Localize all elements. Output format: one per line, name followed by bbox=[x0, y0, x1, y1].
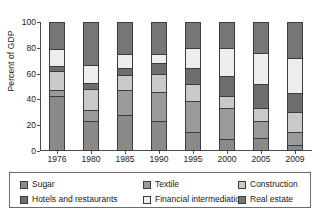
bar-segment[interactable] bbox=[83, 89, 99, 110]
bar-segment[interactable] bbox=[49, 22, 65, 49]
legend-swatch-icon bbox=[238, 196, 246, 204]
bar-segment[interactable] bbox=[151, 54, 167, 63]
legend-label: Textile bbox=[155, 180, 179, 189]
legend-swatch-icon bbox=[20, 196, 28, 204]
bar-segment[interactable] bbox=[151, 121, 167, 151]
bar-stack bbox=[287, 22, 303, 151]
bar-stack bbox=[83, 22, 99, 151]
bar-segment[interactable] bbox=[117, 90, 133, 115]
bar-stack bbox=[219, 22, 235, 151]
bar-segment[interactable] bbox=[185, 48, 201, 69]
bar-column[interactable] bbox=[219, 22, 235, 151]
bar-segment[interactable] bbox=[83, 110, 99, 122]
legend-grid: SugarTextileConstructionHotels and resta… bbox=[10, 173, 310, 207]
bar-column[interactable] bbox=[253, 22, 269, 151]
bar-segment[interactable] bbox=[287, 112, 303, 131]
bar-segment[interactable] bbox=[185, 68, 201, 83]
bar-segment[interactable] bbox=[219, 76, 235, 95]
bar-segment[interactable] bbox=[117, 22, 133, 54]
bar-stack bbox=[253, 22, 269, 151]
y-axis-tick-mark bbox=[37, 151, 40, 152]
bar-segment[interactable] bbox=[219, 108, 235, 139]
bar-segment[interactable] bbox=[83, 65, 99, 83]
bar-segment[interactable] bbox=[151, 63, 167, 73]
legend-item[interactable]: Hotels and restaurants bbox=[20, 193, 118, 206]
bar-stack bbox=[185, 22, 201, 151]
bar-segment[interactable] bbox=[151, 92, 167, 122]
legend-label: Financial intermediation bbox=[155, 195, 245, 204]
bar-segment[interactable] bbox=[253, 138, 269, 151]
bar-segment[interactable] bbox=[287, 145, 303, 151]
x-axis-tick-label: 2009 bbox=[275, 154, 315, 164]
y-axis-tick-label: 40 bbox=[14, 95, 36, 104]
bar-segment[interactable] bbox=[151, 22, 167, 54]
bar-segment[interactable] bbox=[219, 139, 235, 151]
bar-stack bbox=[151, 22, 167, 151]
bar-segment[interactable] bbox=[287, 58, 303, 93]
y-axis-tick-label: 60 bbox=[14, 70, 36, 79]
legend-swatch-icon bbox=[20, 181, 28, 189]
bar-segment[interactable] bbox=[287, 22, 303, 58]
bar-segment[interactable] bbox=[219, 22, 235, 48]
legend-item[interactable]: Construction bbox=[238, 178, 298, 191]
legend-item[interactable]: Sugar bbox=[20, 178, 55, 191]
legend-label: Construction bbox=[250, 180, 298, 189]
legend-item[interactable]: Real estate bbox=[238, 193, 293, 206]
bar-stack bbox=[117, 22, 133, 151]
bar-segment[interactable] bbox=[117, 75, 133, 90]
bar-segment[interactable] bbox=[117, 115, 133, 151]
legend-label: Sugar bbox=[32, 180, 55, 189]
chart-figure: Percent of GDP 020406080100 197619801985… bbox=[0, 0, 320, 215]
legend-item[interactable]: Textile bbox=[143, 178, 179, 191]
legend-label: Hotels and restaurants bbox=[32, 195, 118, 204]
bar-column[interactable] bbox=[49, 22, 65, 151]
x-axis-tick-labels: 19761980198519901995200020052009 bbox=[40, 154, 312, 166]
bar-series-container bbox=[40, 22, 312, 151]
y-axis-tick-labels: 020406080100 bbox=[14, 19, 36, 151]
plot-area: Percent of GDP 020406080100 197619801985… bbox=[0, 0, 320, 166]
bar-segment[interactable] bbox=[49, 49, 65, 66]
legend-swatch-icon bbox=[238, 181, 246, 189]
bar-column[interactable] bbox=[287, 22, 303, 151]
bar-segment[interactable] bbox=[49, 71, 65, 90]
bar-segment[interactable] bbox=[49, 96, 65, 151]
y-axis-tick-label: 20 bbox=[14, 121, 36, 130]
legend-swatch-icon bbox=[143, 181, 151, 189]
bar-segment[interactable] bbox=[117, 54, 133, 68]
bar-segment[interactable] bbox=[287, 132, 303, 145]
bar-segment[interactable] bbox=[83, 22, 99, 65]
bar-segment[interactable] bbox=[253, 108, 269, 121]
y-axis-tick-label: 100 bbox=[14, 18, 36, 27]
bar-column[interactable] bbox=[151, 22, 167, 151]
legend-label: Real estate bbox=[250, 195, 293, 204]
y-axis-tick-label: 0 bbox=[14, 147, 36, 156]
bar-segment[interactable] bbox=[185, 22, 201, 48]
legend-swatch-icon bbox=[143, 196, 151, 204]
chart-legend: SugarTextileConstructionHotels and resta… bbox=[9, 172, 311, 208]
bar-stack bbox=[49, 22, 65, 151]
bar-segment[interactable] bbox=[185, 84, 201, 101]
bar-segment[interactable] bbox=[151, 74, 167, 92]
bar-segment[interactable] bbox=[83, 121, 99, 151]
bar-segment[interactable] bbox=[185, 132, 201, 151]
bar-segment[interactable] bbox=[185, 101, 201, 132]
bar-segment[interactable] bbox=[287, 93, 303, 112]
bar-segment[interactable] bbox=[253, 84, 269, 109]
y-axis-tick-label: 80 bbox=[14, 44, 36, 53]
bar-segment[interactable] bbox=[253, 121, 269, 138]
bar-column[interactable] bbox=[117, 22, 133, 151]
bar-column[interactable] bbox=[83, 22, 99, 151]
bar-segment[interactable] bbox=[219, 48, 235, 76]
bar-column[interactable] bbox=[185, 22, 201, 151]
bar-segment[interactable] bbox=[219, 96, 235, 109]
bar-segment[interactable] bbox=[253, 53, 269, 84]
bar-segment[interactable] bbox=[253, 22, 269, 53]
chart-axes bbox=[40, 22, 312, 151]
legend-item[interactable]: Financial intermediation bbox=[143, 193, 245, 206]
